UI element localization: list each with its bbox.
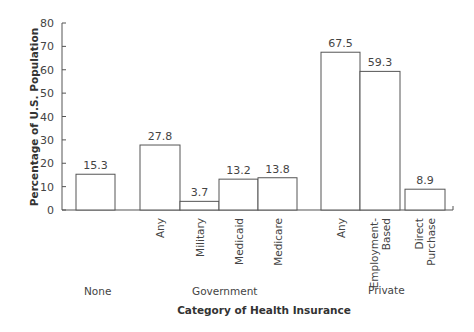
- category-label: Purchase: [425, 218, 437, 266]
- bar-group: 59.3Employment-Based: [360, 56, 400, 288]
- value-label: 13.2: [226, 164, 251, 177]
- bar: [360, 71, 400, 210]
- value-label: 27.8: [148, 130, 173, 143]
- bar: [405, 189, 445, 210]
- bar-group: 3.7Military: [180, 186, 219, 257]
- bars: 15.327.8Any3.7Military13.2Medicaid13.8Me…: [76, 37, 445, 288]
- bar-group: 27.8Any: [140, 130, 180, 238]
- bar: [76, 174, 115, 210]
- y-tick-label: 40: [40, 111, 54, 124]
- bar: [219, 179, 258, 210]
- category-label: Direct: [413, 218, 425, 249]
- group-label-government: Government: [192, 285, 257, 297]
- bar-group: 15.3: [76, 159, 115, 210]
- category-label: Medicare: [272, 218, 284, 266]
- bar: [321, 52, 360, 210]
- value-label: 59.3: [368, 56, 393, 69]
- category-label: Any: [335, 218, 347, 238]
- value-label: 13.8: [265, 163, 290, 176]
- bar-chart: 01020304050607080 15.327.8Any3.7Military…: [0, 0, 474, 332]
- category-label: Medicaid: [233, 218, 245, 265]
- category-label: Based: [380, 218, 392, 250]
- y-axis-title: Percentage of U.S. Population: [28, 28, 40, 206]
- bar: [180, 201, 219, 210]
- group-label-private: Private: [368, 284, 405, 296]
- y-tick-label: 20: [40, 157, 54, 170]
- y-tick-label: 60: [40, 64, 54, 77]
- value-label: 15.3: [83, 159, 108, 172]
- y-tick-label: 50: [40, 87, 54, 100]
- value-label: 8.9: [416, 174, 434, 187]
- y-tick-label: 10: [40, 181, 54, 194]
- bar-group: 8.9DirectPurchase: [405, 174, 445, 265]
- bar-group: 13.8Medicare: [258, 163, 297, 266]
- x-axis-title: Category of Health Insurance: [177, 304, 351, 316]
- category-label: Any: [154, 218, 166, 238]
- category-label: Military: [194, 218, 206, 257]
- y-tick-label: 30: [40, 134, 54, 147]
- value-label: 67.5: [328, 37, 353, 50]
- y-tick-label: 0: [47, 204, 54, 217]
- bar-group: 13.2Medicaid: [219, 164, 258, 265]
- value-label: 3.7: [191, 186, 209, 199]
- group-label-none: None: [84, 285, 111, 297]
- bar: [258, 178, 297, 210]
- y-tick-label: 80: [40, 17, 54, 30]
- y-tick-label: 70: [40, 40, 54, 53]
- category-label: Employment-: [368, 218, 380, 289]
- bar-group: 67.5Any: [321, 37, 360, 238]
- bar: [140, 145, 180, 210]
